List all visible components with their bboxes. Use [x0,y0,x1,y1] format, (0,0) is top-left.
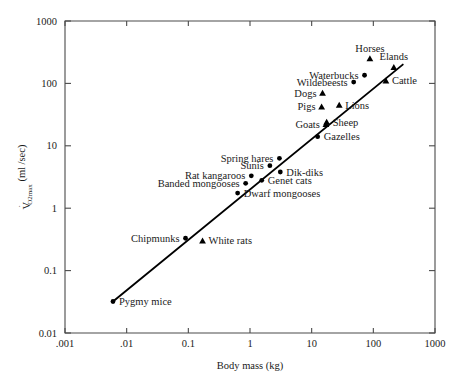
chart-canvas: .001.010.111010010000.010.11101001000Bod… [0,0,460,390]
data-point-label: Cattle [392,75,417,86]
data-point-label: Gazelles [324,131,360,142]
data-point-circle [111,299,116,304]
data-point-triangle [390,64,397,70]
data-point-label: White rats [209,235,252,246]
data-point-label: Spring hares [221,153,274,164]
data-point-label: Waterbucks [309,70,358,81]
y-axis-title: V˙O2max (ml /sec) [16,144,34,209]
x-tick-label: 1000 [425,338,446,349]
data-point-triangle [199,237,206,243]
data-point-label: Dogs [294,88,316,99]
data-point-circle [249,173,254,178]
vo2max-body-mass-scatter-figure: .001.010.111010010000.010.11101001000Bod… [0,0,460,390]
data-point-label: Sheep [333,117,359,128]
x-tick-label: 100 [365,338,381,349]
x-axis-title: Body mass (kg) [217,360,284,372]
data-point-label: Chipmunks [131,233,179,244]
data-point-label: Elands [380,51,409,62]
x-tick-label: 1 [247,338,252,349]
data-point-label: Dwarf mongooses [244,188,321,199]
x-tick-label: .01 [120,338,133,349]
y-tick-label: 1 [52,203,57,214]
data-point-label: Pygmy mice [119,296,172,307]
data-point-triangle [323,119,330,125]
data-point-circle [183,236,188,241]
y-tick-label: 1000 [36,16,57,27]
x-tick-label: 0.1 [182,338,195,349]
x-tick-label: .001 [56,338,74,349]
data-point-circle [362,73,367,78]
data-point-circle [235,191,240,196]
data-point-label: Rat kangaroos [185,170,245,181]
data-point-circle [243,181,248,186]
data-point-triangle [318,104,325,110]
x-tick-label: 10 [306,338,317,349]
y-tick-label: 10 [47,140,58,151]
data-point-circle [277,156,282,161]
data-point-label: Pigs [298,101,316,112]
y-tick-label: 100 [41,78,57,89]
y-tick-label: 0.01 [39,328,57,339]
data-point-circle [267,163,272,168]
data-point-circle [315,134,320,139]
data-point-label: Goats [295,119,320,130]
data-point-triangle [367,55,374,61]
data-point-label: Dik-diks [286,167,323,178]
y-tick-label: 0.1 [44,265,57,276]
data-point-circle [278,170,283,175]
data-point-circle [259,178,264,183]
data-point-triangle [336,102,343,108]
data-point-label: Lions [345,100,369,111]
data-point-triangle [319,90,326,96]
